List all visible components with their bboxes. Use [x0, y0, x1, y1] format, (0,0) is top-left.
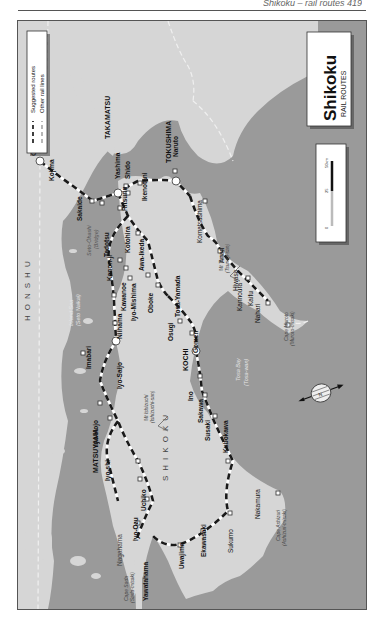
scale-tick-25: 25 — [324, 188, 329, 193]
label-nagahama: Nagahama — [116, 534, 124, 566]
shikoku-rail-map: OKAYAMA TAKAMATSU TOKUSHIMA MATSUYAMA KO… — [18, 21, 366, 609]
running-header: Shikoku – rail routes 419 — [263, 0, 362, 8]
label-awa-ikeda: Awa-Ikeda — [138, 239, 145, 271]
label-yashima: Yashima — [114, 152, 121, 179]
label-tosa-bay: Tosa Bay — [235, 357, 241, 381]
label-kochi: KOCHI — [182, 348, 189, 371]
label-komatsushima: Komatsushima — [196, 200, 203, 243]
label-uchiko: Uchiko — [140, 489, 147, 511]
label-cape-ashizuri-sub: (Ashizuri-misaki) — [281, 509, 287, 546]
map-subtitle: RAIL ROUTES — [340, 70, 347, 117]
legend-label-other: Other rail lines — [39, 74, 45, 113]
scale-tick-50: 50km — [324, 158, 329, 168]
label-imabari: Imabari — [85, 346, 92, 369]
label-gomen: Gomen — [192, 331, 199, 353]
label-yawatahama: Yawatahama — [142, 562, 149, 601]
label-shido: Shido — [124, 161, 131, 179]
scale-bar-box: 0 25 50km — [316, 144, 349, 245]
label-ikenotani: Ikenotani — [141, 172, 148, 201]
label-seto-ohashi-sub: (Bridge) — [93, 229, 99, 249]
label-niihama: Niihama — [116, 313, 123, 339]
label-susaki: Susaki — [204, 420, 211, 441]
label-iyo-hojo: Iyo-Hojo — [92, 420, 100, 446]
label-nahari: Nahari — [254, 304, 261, 323]
label-inland-sea-sub: (Seto Naikai) — [75, 294, 81, 326]
label-kubokawa: Kubokawa — [222, 420, 229, 453]
label-kotohira: Kotohira — [124, 226, 131, 253]
header-rule — [18, 10, 366, 11]
label-kaifu: Kaifu — [247, 291, 254, 306]
label-iyo-ozu: Iyo-Ozu — [132, 517, 140, 541]
label-iyo-saijo: Iyo-Saijo — [116, 362, 124, 389]
label-sakaide: Sakaide — [76, 196, 83, 221]
label-naruto: Naruto — [172, 136, 179, 157]
label-oboke: Oboke — [147, 292, 154, 313]
label-tosa-bay-sub: (Tosa-wan) — [243, 359, 249, 386]
label-kanon-ji: Kanon-ji — [106, 255, 114, 281]
label-inland-sea: Inland Sea — [68, 300, 74, 326]
label-iyo-shi: Iyo-shi — [104, 460, 112, 481]
label-mt-ishizuchi-sub: (Ishizuchi-san) — [149, 390, 155, 423]
label-kawanoe: Kawanoe — [120, 282, 127, 311]
label-ekawasaki: Ekawasaki — [200, 524, 207, 557]
map-frame: OKAYAMA TAKAMATSU TOKUSHIMA MATSUYAMA KO… — [17, 20, 367, 610]
label-kojima: Kojima — [48, 159, 56, 181]
label-osugi: Osugi — [167, 322, 175, 341]
label-ritsurin: Ritsurin — [121, 186, 128, 211]
label-takamatsu: TAKAMATSU — [104, 96, 111, 139]
legend-label-suggested: Suggested routes — [30, 66, 36, 113]
label-tokushima: TOKUSHIMA — [165, 121, 172, 163]
title-box: Shikoku RAIL ROUTES — [307, 32, 354, 129]
label-ino: Ino — [187, 391, 194, 401]
legend-box: Suggested routes Other rail lines — [27, 31, 50, 156]
label-tosa-yamada: Tosa-Yamada — [174, 275, 181, 317]
label-shikoku: SHIKOKU — [161, 410, 170, 481]
label-cape-muroto-sub: (Muroto-misaki) — [289, 311, 295, 346]
label-sakawa: Sakawa — [197, 399, 204, 423]
label-kannoura: Kannoura — [236, 282, 243, 311]
label-mt-tsurugi-sub: (Tsurugi-san) — [224, 243, 230, 273]
map-title: Shikoku — [321, 55, 340, 121]
label-iyo-mishima: Iyo-Mishima — [130, 283, 138, 321]
label-seto-ohashi: Seto-Ōhashi — [86, 225, 92, 256]
label-honshu: HONSHU — [23, 256, 32, 321]
label-uwajima: Uwajima — [178, 542, 186, 569]
label-cape-sada-sub: (Sada-misaki) — [129, 572, 135, 603]
label-nakamura: Nakamura — [254, 489, 261, 519]
label-sukumo: Sukumo — [227, 529, 234, 553]
label-tadotsu: Tadotsu — [103, 232, 110, 257]
